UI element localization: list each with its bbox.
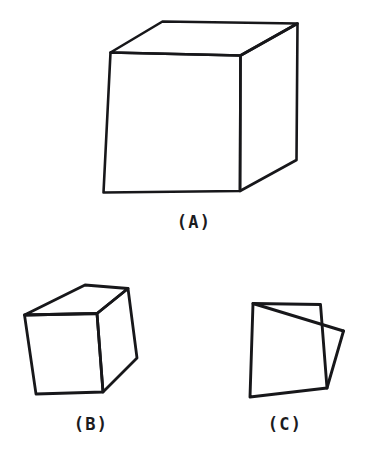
cube-c-drawing [250, 304, 344, 398]
cube-a-right-face [240, 24, 298, 192]
panel-label-b: (B) [36, 414, 146, 434]
cube-b-drawing [25, 285, 138, 394]
cube-b-right-face [97, 289, 137, 393]
cube-a-drawing [104, 22, 298, 193]
cube-b-front-face [25, 314, 104, 395]
cube-drawings-figure: (A) (B) (C) [0, 0, 388, 461]
cube-c-crossing-diagonal [253, 304, 344, 332]
panel-label-c: (C) [230, 414, 340, 434]
cube-c-right-flap-edge [327, 331, 344, 388]
cube-a-front-face [104, 53, 241, 193]
panel-label-a: (A) [128, 212, 260, 232]
cube-c-front-quadrilateral [250, 304, 327, 398]
